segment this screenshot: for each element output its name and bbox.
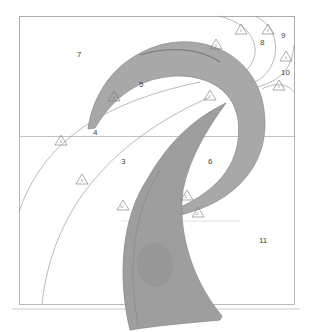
region-label-4: 4	[93, 128, 98, 137]
region-label-8: 8	[260, 38, 265, 47]
svg-text:8: 8	[60, 140, 62, 144]
svg-text:1: 1	[240, 29, 242, 33]
svg-text:4: 4	[285, 56, 287, 60]
region-label-3: 3	[121, 157, 126, 166]
marker-7: 7	[204, 90, 216, 100]
svg-text:11: 11	[184, 195, 187, 199]
region-label-9: 9	[281, 31, 286, 40]
svg-text:9: 9	[81, 179, 83, 183]
region-label-11: 11	[259, 236, 268, 245]
arc-10	[258, 45, 294, 87]
arc-9	[255, 16, 276, 82]
stem-shading	[137, 243, 173, 287]
region-label-7: 7	[77, 50, 82, 59]
region-label-5: 5	[139, 80, 144, 89]
svg-text:10: 10	[120, 205, 124, 209]
svg-text:2: 2	[267, 29, 269, 33]
region-label-6: 6	[208, 157, 213, 166]
svg-text:5: 5	[278, 85, 280, 89]
marker-4: 4	[280, 51, 292, 61]
svg-text:3: 3	[215, 44, 217, 48]
stem-fabric	[123, 103, 226, 330]
marker-10: 10	[117, 200, 129, 210]
svg-text:7: 7	[209, 95, 211, 99]
quilt-diagram: 7 8 9 10 5 4 3 6 11 1 2 3 4 5 6 7 8 9 10…	[0, 0, 313, 332]
region-label-10: 10	[281, 68, 290, 77]
svg-text:12: 12	[195, 212, 199, 216]
marker-9: 9	[76, 174, 88, 184]
